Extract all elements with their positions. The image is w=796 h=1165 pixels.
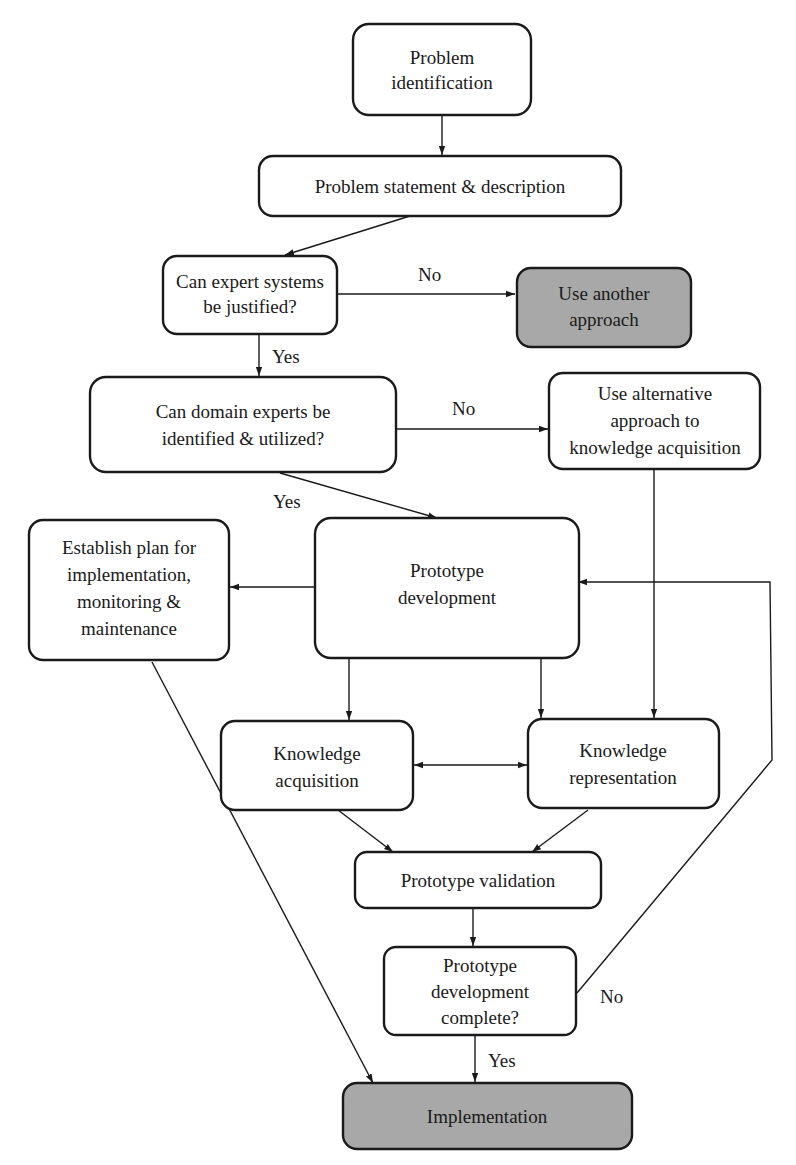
node-domain-experts: Can domain experts be identified & utili… xyxy=(90,377,396,472)
node-prototype-validation: Prototype validation xyxy=(355,852,601,908)
svg-text:Implementation: Implementation xyxy=(427,1106,548,1127)
svg-text:representation: representation xyxy=(569,767,677,788)
svg-text:acquisition: acquisition xyxy=(275,770,359,791)
svg-text:Prototype validation: Prototype validation xyxy=(401,870,556,891)
svg-text:Can domain experts be: Can domain experts be xyxy=(156,401,331,422)
node-expert-systems-justified: Can expert systems be justified? xyxy=(163,256,337,334)
edge-label-justified-no: No xyxy=(418,264,441,285)
svg-text:Use another: Use another xyxy=(558,283,650,304)
node-prototype-development: Prototype development xyxy=(315,518,579,658)
svg-text:knowledge acquisition: knowledge acquisition xyxy=(569,437,741,458)
svg-text:identification: identification xyxy=(391,72,493,93)
svg-text:Establish plan for: Establish plan for xyxy=(62,537,197,558)
svg-text:be justified?: be justified? xyxy=(203,296,296,317)
svg-text:monitoring &: monitoring & xyxy=(77,591,181,612)
node-use-another-approach[interactable]: Use another approach xyxy=(517,268,691,347)
expert-system-development-flowchart: No Yes No Yes No Yes Problem identificat… xyxy=(0,0,796,1165)
edge-label-experts-yes: Yes xyxy=(273,491,301,512)
svg-text:Knowledge: Knowledge xyxy=(579,740,667,761)
svg-text:Problem statement & descriptio: Problem statement & description xyxy=(315,176,566,197)
svg-text:implementation,: implementation, xyxy=(67,564,191,585)
node-establish-plan: Establish plan for implementation, monit… xyxy=(29,520,229,660)
edge-acquisition-to-validation xyxy=(338,810,393,852)
node-development-complete: Prototype development complete? xyxy=(384,947,576,1035)
node-implementation[interactable]: Implementation xyxy=(343,1083,632,1149)
node-knowledge-acquisition: Knowledge acquisition xyxy=(221,721,413,810)
edge-label-complete-yes: Yes xyxy=(488,1050,516,1071)
svg-text:approach to: approach to xyxy=(610,410,699,431)
edge-experts-yes xyxy=(280,473,437,518)
svg-text:complete?: complete? xyxy=(441,1007,519,1028)
edge-representation-to-validation xyxy=(532,810,588,852)
svg-text:Use alternative: Use alternative xyxy=(598,383,712,404)
svg-text:Problem: Problem xyxy=(410,47,475,68)
svg-text:approach: approach xyxy=(569,309,639,330)
node-problem-statement: Problem statement & description xyxy=(259,156,621,216)
svg-text:Knowledge: Knowledge xyxy=(273,743,361,764)
edge-label-justified-yes: Yes xyxy=(272,346,300,367)
edge-label-experts-no: No xyxy=(452,398,475,419)
node-alternative-approach: Use alternative approach to knowledge ac… xyxy=(549,373,760,469)
svg-text:development: development xyxy=(431,981,530,1002)
svg-text:maintenance: maintenance xyxy=(81,618,177,639)
node-knowledge-representation: Knowledge representation xyxy=(528,719,719,808)
edge-statement-to-justified xyxy=(285,216,410,255)
svg-text:Prototype: Prototype xyxy=(443,955,517,976)
edge-label-complete-no: No xyxy=(600,986,623,1007)
svg-text:Prototype: Prototype xyxy=(410,560,484,581)
node-problem-identification: Problem identification xyxy=(353,24,531,115)
svg-text:Can expert systems: Can expert systems xyxy=(176,271,324,292)
svg-text:development: development xyxy=(398,587,497,608)
svg-text:identified & utilized?: identified & utilized? xyxy=(162,428,325,449)
